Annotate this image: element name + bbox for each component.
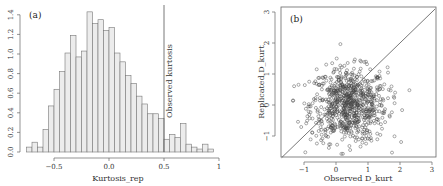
scatter-point [324,134,327,137]
histogram-bar [93,24,99,152]
x-tick-label: 0.0 [103,163,114,171]
scatter-point [386,66,389,69]
histogram-bar [181,124,187,152]
figure: Observed kurtosis (a) 0.00.20.40.60.81.0… [0,0,443,186]
scatter-point [343,64,346,67]
scatter-point [378,70,381,73]
scatter-point [375,105,378,108]
panel-a-label: (a) [29,10,41,20]
x-tick-label: −1 [299,166,309,174]
scatter-point [359,67,362,70]
scatter-point [381,116,384,119]
scatter-point [381,88,384,91]
scatter-point [360,60,363,63]
x-tick-label: 1 [366,166,370,174]
identity-line [282,9,436,158]
scatter-point [390,111,393,114]
scatter-plot-box [281,7,436,157]
histogram-bar [208,149,214,152]
histogram-bar [71,35,77,152]
histogram-bar [87,12,93,152]
scatter-point [361,116,364,119]
scatter-point [338,68,341,71]
scatter-point [311,102,314,105]
histogram-bar [126,76,132,152]
scatter-point [384,108,387,111]
scatter-point [329,81,332,84]
y-tick-label: 1.2 [7,29,15,40]
scatter-point [304,151,307,154]
histogram-bar [203,144,209,152]
panel-b-label: (b) [290,14,303,24]
scatter-point [401,109,404,112]
scatter-point [309,138,312,141]
scatter-point [315,68,318,71]
scatter-point [348,145,351,148]
histogram-bar [115,53,121,152]
scatter-point [370,86,373,89]
y-tick-label: 0.0 [7,146,15,157]
scatter-point [346,69,349,72]
scatter-point [360,75,363,78]
scatter-point [376,132,379,135]
scatter-point [359,145,362,148]
scatter-point [308,80,311,83]
y-tick-label: 0.2 [7,127,15,138]
scatter-point [356,136,359,139]
scatter-point [390,85,393,88]
histogram-bar [65,53,71,152]
histogram-bar [159,119,165,152]
scatter-point [373,99,376,102]
scatter-point [307,110,310,113]
scatter-point [315,134,318,137]
scatter-point [311,117,314,120]
scatter-point [357,138,360,141]
scatter-point [391,151,394,154]
scatter-point [309,111,312,114]
histogram-bar [164,139,170,152]
scatter-point [377,121,380,124]
y-tick-label: 3 [263,10,271,14]
scatter-point [373,79,376,82]
scatter-point [320,106,323,109]
scatter-point [408,89,411,92]
scatter-point [335,68,338,71]
scatter-point [387,97,390,100]
scatter-panel: (b) −10123−10123 Observed D_kurt Replica… [257,7,436,183]
histogram-bar [49,106,55,152]
scatter-point [335,57,338,60]
scatter-point [341,138,344,141]
scatter-point [346,62,349,65]
scatter-point [332,71,335,74]
histogram-bar [197,149,203,152]
scatter-point [304,107,307,110]
scatter-point [383,83,386,86]
scatter-y-axis-title: Replicated D_kurt [257,45,266,119]
scatter-point [327,146,330,149]
x-tick-label: 1 [217,163,221,171]
scatter-point [336,143,339,146]
scatter-point [387,88,390,91]
scatter-point [366,63,369,66]
y-tick-label: 2 [263,41,271,45]
scatter-point [389,89,392,92]
scatter-point [376,138,379,141]
y-tick-label: 0.4 [7,107,15,119]
scatter-point [320,128,323,131]
x-tick-label: −0.5 [46,163,63,171]
scatter-point [384,121,387,124]
x-tick-label: 0.5 [158,163,169,171]
histogram-bar [170,134,176,152]
histogram-bar [98,20,104,152]
histogram-bar [32,142,38,152]
scatter-point [339,43,342,46]
scatter-point [303,84,306,87]
scatter-point [315,142,318,145]
histogram-bar [38,147,44,152]
scatter-point [379,133,382,136]
histogram-x-axis-title: Kurtosis_rep [92,174,143,183]
scatter-point [297,83,300,86]
scatter-point [305,122,308,125]
scatter-point [343,135,346,138]
scatter-point [320,133,323,136]
